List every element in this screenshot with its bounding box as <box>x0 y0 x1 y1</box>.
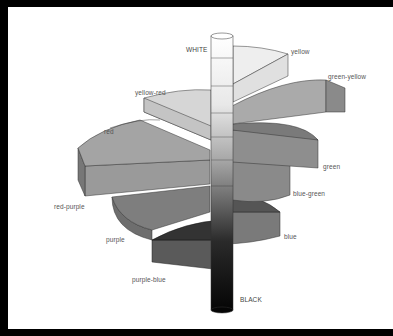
label-purple: purple <box>106 236 125 243</box>
label-blue-green: blue-green <box>293 190 325 197</box>
label-green: green <box>323 163 340 170</box>
label-yellow: yellow <box>291 48 310 55</box>
slice-green <box>232 123 318 168</box>
label-white: WHITE <box>186 46 207 53</box>
label-red-purple: red-purple <box>54 203 85 210</box>
label-yellow-red: yellow-red <box>135 89 166 96</box>
label-blue: blue <box>284 233 297 240</box>
value-axis-column <box>211 33 233 313</box>
label-purple-blue: purple-blue <box>132 276 166 283</box>
diagram-canvas: WHITE yellow green-yellow green blue-gre… <box>8 7 393 329</box>
label-black: BLACK <box>240 296 262 303</box>
label-green-yellow: green-yellow <box>328 73 366 80</box>
label-red: red <box>104 128 114 135</box>
